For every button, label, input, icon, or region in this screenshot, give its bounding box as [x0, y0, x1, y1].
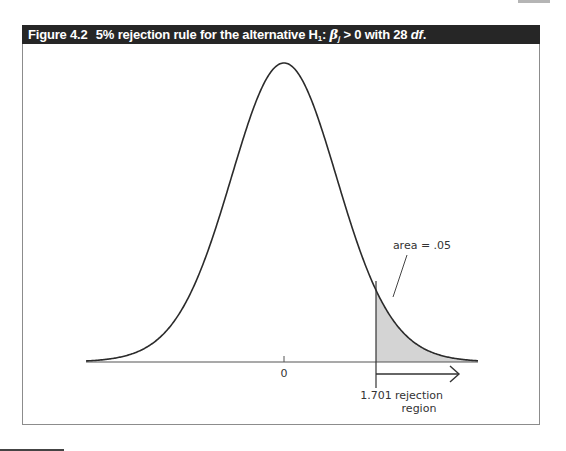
area-label: area = .05: [393, 239, 451, 252]
area-leader-line: [393, 255, 407, 297]
rejection-region-label-line2: region: [402, 402, 437, 415]
rejection-region-label-line1: rejection: [395, 389, 443, 402]
zero-label: 0: [281, 367, 288, 380]
t-distribution-plot: 0 1.701 area = .05 rejection region: [0, 0, 566, 451]
density-curve: [86, 63, 478, 361]
rejection-region-shading: [376, 290, 478, 362]
critical-value-label: 1.701: [360, 389, 392, 402]
